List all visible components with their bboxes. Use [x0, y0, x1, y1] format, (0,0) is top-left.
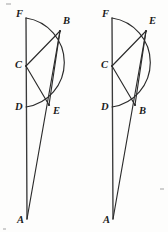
scan-speck [6, 3, 11, 5]
vertex-dot-C [25, 65, 27, 67]
right-geometric-figure: F E C D B A [100, 8, 156, 225]
point-label-C: C [101, 59, 109, 70]
segment-F-A [112, 18, 113, 219]
vertex-dot-B [59, 30, 61, 32]
arc-F-D [112, 18, 150, 107]
point-label-D: D [100, 101, 109, 112]
segment-C-B [112, 66, 135, 105]
point-label-B: B [138, 105, 146, 116]
point-label-E: E [52, 105, 60, 116]
arc-F-D [26, 18, 64, 107]
vertex-dot-C [111, 65, 113, 67]
vertex-dot-E [145, 30, 147, 32]
segment-F-A [26, 18, 27, 219]
figures-canvas: F B C D E A F E C D B A [0, 0, 168, 232]
point-label-F: F [101, 8, 109, 19]
scan-speck [160, 188, 164, 190]
vertex-dot-B [134, 104, 136, 106]
segment-C-E [26, 66, 49, 105]
point-label-F: F [15, 8, 23, 19]
vertex-dot-E [48, 104, 50, 106]
point-label-D: D [14, 101, 23, 112]
point-label-B: B [62, 15, 70, 26]
point-label-A: A [16, 214, 24, 225]
geometry-figure-pair: F B C D E A F E C D B A [0, 0, 168, 232]
left-geometric-figure: F B C D E A [14, 8, 70, 225]
point-label-E: E [148, 15, 156, 26]
point-label-A: A [102, 214, 110, 225]
point-label-C: C [15, 59, 23, 70]
scan-speck [3, 228, 6, 230]
